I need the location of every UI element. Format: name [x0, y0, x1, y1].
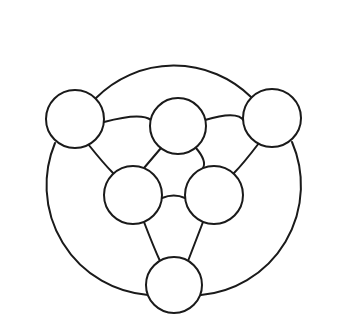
node-layer — [46, 89, 301, 313]
edge-innertop-topright — [205, 115, 244, 121]
edge-topleft-innerleft — [88, 144, 113, 173]
edge-innertop-innerleft — [144, 148, 161, 168]
node-inner-right[interactable] — [185, 166, 243, 224]
edge-innerleft-bottom — [144, 222, 160, 261]
outer-arc-top — [96, 66, 251, 98]
edge-topleft-innertop — [104, 116, 151, 122]
node-outer-top-right[interactable] — [243, 89, 301, 147]
node-inner-top[interactable] — [150, 98, 206, 154]
node-outer-bottom[interactable] — [146, 257, 202, 313]
edge-topright-innerright — [234, 143, 259, 173]
diagram-canvas — [0, 0, 344, 327]
graph-svg — [0, 0, 344, 327]
node-inner-left[interactable] — [104, 166, 162, 224]
edge-innerright-bottom — [188, 222, 203, 261]
edge-innerleft-innerright — [162, 196, 185, 199]
edge-innertop-innerright — [196, 148, 204, 168]
node-outer-top-left[interactable] — [46, 90, 104, 148]
